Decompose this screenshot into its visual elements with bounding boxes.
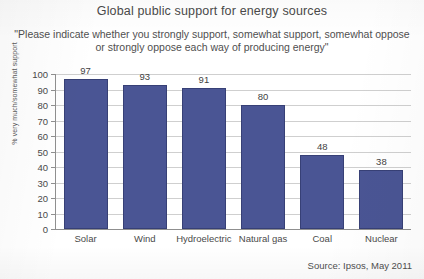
chart-title: Global public support for energy sources — [0, 4, 424, 18]
y-axis-tick-mark — [51, 121, 55, 122]
bar[interactable] — [123, 85, 167, 229]
y-axis-tick-mark — [51, 167, 55, 168]
x-axis-tick-labels: SolarWindHydroelectricNatural gasCoalNuc… — [56, 233, 411, 249]
y-axis-tick-mark — [51, 214, 55, 215]
y-axis-tick-label: 100 — [24, 70, 48, 79]
y-axis-tick-label: 80 — [24, 101, 48, 110]
y-axis-tick-label: 0 — [24, 225, 48, 234]
y-axis-tick-label: 60 — [24, 132, 48, 141]
bar[interactable] — [300, 155, 344, 229]
source-note: Source: Ipsos, May 2011 — [308, 260, 412, 271]
plot-area: 979391804838 — [56, 74, 411, 229]
y-axis-tick-label: 50 — [24, 148, 48, 157]
y-axis-tick-mark — [51, 152, 55, 153]
bar-value-label: 38 — [359, 156, 403, 167]
x-axis-tick-label: Nuclear — [343, 233, 419, 244]
y-axis-tick-label: 40 — [24, 163, 48, 172]
bar[interactable] — [64, 79, 108, 229]
bar[interactable] — [359, 170, 403, 229]
bar-value-label: 93 — [123, 71, 167, 82]
y-axis-tick-mark — [51, 105, 55, 106]
chart-subtitle-line-2: or strongly oppose each way of producing… — [8, 41, 416, 54]
y-axis-tick-mark — [51, 136, 55, 137]
gridline — [56, 229, 411, 230]
bars-layer: 979391804838 — [56, 74, 411, 229]
y-axis-tick-label: 10 — [24, 210, 48, 219]
y-axis-tick-mark — [51, 183, 55, 184]
y-axis-tick-label: 20 — [24, 194, 48, 203]
y-axis-tick-label: 30 — [24, 179, 48, 188]
bar[interactable] — [241, 105, 285, 229]
chart-subtitle-line-1: "Please indicate whether you strongly su… — [14, 28, 409, 40]
y-axis-tick-mark — [51, 74, 55, 75]
bar-value-label: 91 — [182, 74, 226, 85]
y-axis-tick-labels: 1009080706050403020100 — [22, 74, 48, 230]
bar-value-label: 48 — [300, 141, 344, 152]
y-axis-tick-mark — [51, 229, 55, 230]
y-axis-tick-mark — [51, 198, 55, 199]
chart-subtitle: "Please indicate whether you strongly su… — [8, 28, 416, 54]
y-axis-title: % very much/somewhat support — [11, 24, 18, 164]
y-axis-tick-label: 90 — [24, 86, 48, 95]
bar-value-label: 80 — [241, 91, 285, 102]
y-axis-tick-label: 70 — [24, 117, 48, 126]
y-axis-tick-mark — [51, 90, 55, 91]
bar-chart: Global public support for energy sources… — [0, 0, 424, 279]
bar-value-label: 97 — [64, 65, 108, 76]
bar[interactable] — [182, 88, 226, 229]
